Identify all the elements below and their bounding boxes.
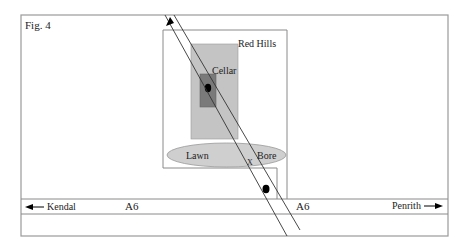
map-diagram: [0, 0, 466, 250]
penrith-label: Penrith: [392, 201, 421, 211]
cellar-label: Cellar: [212, 66, 236, 76]
kendal-label: Kendal: [47, 202, 76, 212]
road-a6-right: A6: [296, 201, 309, 212]
red-hills-label: Red Hills: [238, 39, 276, 49]
crossing-marker: X: [247, 159, 253, 167]
figure-label: Fig. 4: [25, 20, 51, 31]
east-arrow-icon: [435, 203, 443, 209]
bore-label: Bore: [257, 151, 276, 161]
road-a6-left: A6: [125, 201, 138, 212]
road-dot: [263, 185, 270, 193]
west-arrow-icon: [25, 204, 33, 210]
lawn-label: Lawn: [186, 151, 209, 161]
